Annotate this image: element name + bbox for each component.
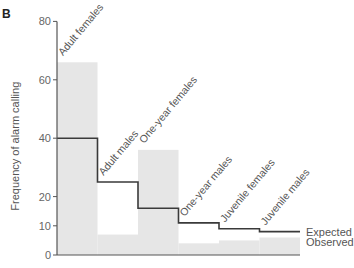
y-tick-label: 20 <box>39 191 51 203</box>
y-tick-label: 80 <box>39 15 51 27</box>
y-tick-label: 40 <box>39 132 51 144</box>
y-axis-label: Frequency of alarm calling <box>9 82 21 211</box>
observed-bar <box>57 62 98 255</box>
observed-bar <box>138 150 179 255</box>
legend-observed: Observed <box>306 236 354 248</box>
category-label: Adult males <box>96 128 140 178</box>
observed-bar <box>219 240 260 255</box>
category-label: Adult females <box>55 1 105 57</box>
y-tick-label: 10 <box>39 220 51 232</box>
bar-chart: 01020406080Frequency of alarm callingAdu… <box>0 0 354 268</box>
category-label: One-year females <box>136 74 199 146</box>
observed-bar <box>98 235 139 255</box>
y-tick-label: 0 <box>45 249 51 261</box>
observed-bar <box>260 237 301 255</box>
observed-bar <box>179 243 220 255</box>
y-tick-label: 60 <box>39 74 51 86</box>
